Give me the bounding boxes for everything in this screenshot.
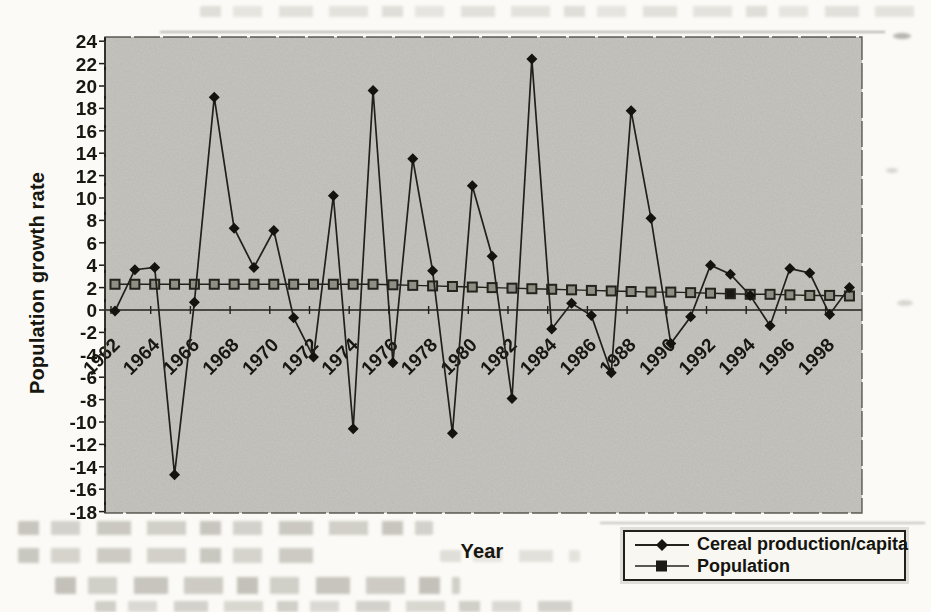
- population-marker: [627, 287, 636, 296]
- x-axis-title: Year: [460, 540, 503, 563]
- y-tick-label: 18: [76, 98, 97, 119]
- y-tick-label: 6: [86, 233, 97, 254]
- population-marker: [468, 283, 477, 292]
- y-tick-label: 0: [86, 300, 97, 321]
- y-tick-label: 24: [76, 31, 98, 52]
- population-marker: [329, 280, 338, 289]
- population-marker: [230, 280, 239, 289]
- y-tick-label: 14: [76, 143, 98, 164]
- population-marker: [448, 282, 457, 291]
- y-tick-label: -2: [80, 322, 97, 343]
- y-tick-label: 2: [86, 278, 97, 299]
- population-marker: [567, 285, 576, 294]
- population-marker: [607, 286, 616, 295]
- population-marker: [587, 286, 596, 295]
- population-growth-chart: 1962196419661968197019721974197619781980…: [0, 0, 931, 612]
- population-marker: [269, 280, 278, 289]
- population-marker: [349, 280, 358, 289]
- y-tick-label: 10: [76, 188, 97, 209]
- population-marker: [666, 288, 675, 297]
- population-marker: [388, 280, 397, 289]
- population-marker: [766, 290, 775, 299]
- y-tick-label: 20: [76, 76, 97, 97]
- y-tick-label: -12: [70, 434, 97, 455]
- y-tick-label: 8: [86, 210, 97, 231]
- population-marker: [825, 291, 834, 300]
- y-tick-label: -16: [70, 479, 97, 500]
- legend: Cereal production/capita Population: [623, 530, 906, 581]
- y-tick-label: -10: [70, 412, 97, 433]
- population-marker: [369, 280, 378, 289]
- scanned-page: 1962196419661968197019721974197619781980…: [0, 0, 931, 612]
- y-tick-label: -14: [70, 457, 98, 478]
- diamond-marker-icon: [634, 538, 690, 552]
- population-marker: [785, 290, 794, 299]
- population-marker: [686, 288, 695, 297]
- legend-item-cereal: Cereal production/capita: [634, 534, 900, 555]
- y-tick-label: 12: [76, 166, 97, 187]
- legend-label-cereal: Cereal production/capita: [697, 534, 908, 555]
- y-axis-title: Population growth rate: [26, 172, 49, 394]
- population-marker: [508, 284, 517, 293]
- y-tick-label: -4: [80, 345, 97, 366]
- population-marker: [527, 284, 536, 293]
- population-marker: [210, 280, 219, 289]
- population-marker: [309, 280, 318, 289]
- population-marker: [706, 289, 715, 298]
- population-marker: [428, 281, 437, 290]
- population-marker: [190, 280, 199, 289]
- population-marker: [249, 280, 258, 289]
- y-tick-label: -18: [70, 502, 97, 523]
- y-tick-label: 4: [86, 255, 97, 276]
- population-marker: [170, 280, 179, 289]
- y-tick-label: -6: [80, 367, 97, 388]
- population-marker: [130, 280, 139, 289]
- y-tick-label: 16: [76, 121, 97, 142]
- y-tick-label: 22: [76, 54, 97, 75]
- population-marker: [289, 280, 298, 289]
- population-marker: [646, 288, 655, 297]
- y-tick-label: -8: [80, 390, 97, 411]
- square-marker-icon: [634, 559, 690, 573]
- population-marker: [408, 281, 417, 290]
- legend-label-population: Population: [697, 556, 790, 577]
- population-marker: [805, 291, 814, 300]
- population-marker: [726, 289, 735, 298]
- population-marker: [150, 280, 159, 289]
- population-marker: [111, 280, 120, 289]
- legend-item-population: Population: [634, 556, 900, 577]
